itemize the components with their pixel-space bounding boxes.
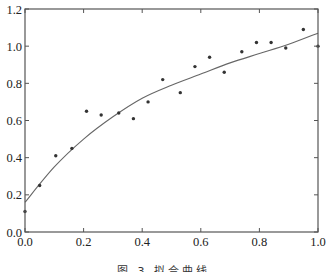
- data-point: [255, 41, 258, 44]
- data-point: [85, 110, 88, 113]
- axis-ticks: [25, 9, 318, 232]
- plot-frame: [25, 9, 318, 232]
- data-point: [193, 65, 196, 68]
- y-tick-label: 1.0: [6, 40, 22, 54]
- y-tick-label: 0.2: [6, 188, 22, 202]
- data-point: [38, 184, 41, 187]
- figure-caption: 图 3 拟合曲线: [0, 264, 327, 272]
- data-point: [132, 117, 135, 120]
- fitted-curve: [25, 33, 318, 202]
- data-point: [146, 100, 149, 103]
- y-tick-label: 0.4: [6, 151, 22, 165]
- data-point: [179, 91, 182, 94]
- data-point: [269, 41, 272, 44]
- data-point: [284, 46, 287, 49]
- x-tick-label: 0.4: [134, 235, 150, 249]
- x-tick-label: 1.0: [310, 235, 326, 249]
- data-point: [223, 70, 226, 73]
- x-tick-label: 0.2: [76, 235, 92, 249]
- y-tick-label: 1.2: [6, 3, 22, 17]
- y-tick-label: 0.8: [6, 77, 22, 91]
- data-point: [117, 111, 120, 114]
- data-point: [70, 147, 73, 150]
- fit-line: [25, 33, 318, 202]
- y-tick-label: 0.6: [6, 114, 22, 128]
- scatter-chart: 0.00.20.40.60.81.0 0.00.20.40.60.81.01.2: [0, 0, 327, 264]
- data-point: [161, 78, 164, 81]
- x-axis-tick-labels: 0.00.20.40.60.81.0: [17, 235, 326, 249]
- data-point: [240, 50, 243, 53]
- x-tick-label: 0.8: [252, 235, 268, 249]
- data-point: [54, 154, 57, 157]
- data-point: [99, 113, 102, 116]
- data-point: [302, 28, 305, 31]
- y-tick-label: 0.0: [6, 226, 22, 240]
- data-points: [23, 28, 319, 214]
- y-axis-tick-labels: 0.00.20.40.60.81.01.2: [6, 3, 22, 240]
- x-tick-label: 0.6: [193, 235, 209, 249]
- data-point: [208, 56, 211, 59]
